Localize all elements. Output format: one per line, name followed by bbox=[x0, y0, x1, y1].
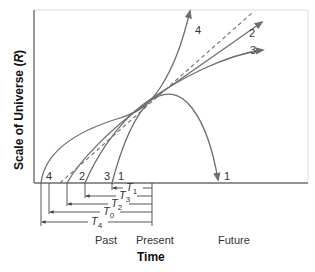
curve-3-start-label: 3 bbox=[104, 170, 110, 182]
curve-4-top-label: 4 bbox=[195, 24, 201, 36]
x-axis-title: Time bbox=[137, 250, 165, 264]
past-label: Past bbox=[95, 234, 117, 246]
curve-3-top-label: 3 bbox=[250, 44, 256, 56]
curve-4-start-label: 4 bbox=[46, 170, 52, 182]
curve-1-start-label: 1 bbox=[118, 170, 124, 182]
present-label: Present bbox=[136, 234, 174, 246]
curve-2-start-label: 2 bbox=[79, 170, 85, 182]
curve-1 bbox=[112, 94, 218, 183]
future-label: Future bbox=[218, 234, 250, 246]
curve-2-top-label: 2 bbox=[249, 27, 255, 39]
t4-label: T4 bbox=[91, 215, 103, 230]
expansion-of-universe-diagram: 4 2 3 1 4 2 3 1 T1 T3 T2 bbox=[0, 0, 315, 272]
curve-1-end-label: 1 bbox=[224, 170, 230, 182]
expansion-curves bbox=[41, 11, 263, 183]
plot-frame bbox=[34, 10, 308, 183]
y-axis-title: Scale of Universe (R) bbox=[12, 50, 26, 170]
curve-2 bbox=[67, 22, 262, 183]
curve-4 bbox=[41, 11, 190, 183]
curve-3 bbox=[85, 50, 263, 183]
